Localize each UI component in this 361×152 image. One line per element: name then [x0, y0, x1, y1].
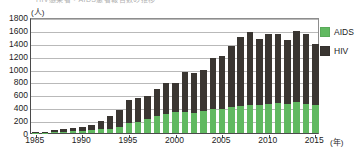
bar-segment-hiv — [303, 34, 310, 104]
bar-column — [247, 32, 254, 133]
y-tick-label: 1000 — [9, 66, 28, 74]
bar-segment-hiv — [172, 83, 179, 113]
bar-segment-aids — [265, 104, 272, 133]
legend-item: HIV — [320, 46, 361, 56]
bar-segment-hiv — [135, 98, 142, 122]
y-tick-label: 800 — [14, 78, 28, 86]
y-axis-tick-labels: 020040060080010001200140016001800 — [0, 18, 29, 134]
legend-swatch-icon — [320, 46, 330, 56]
bar-segment-aids — [51, 132, 58, 133]
bar-segment-aids — [172, 112, 179, 133]
bar-segment-hiv — [228, 46, 235, 107]
bar-column — [163, 83, 170, 133]
bar-segment-aids — [70, 131, 77, 133]
bar-segment-aids — [191, 113, 198, 133]
x-tick-label: 1990 — [72, 135, 91, 145]
bar-segment-aids — [135, 122, 142, 133]
bar-segment-aids — [79, 131, 86, 133]
bar-column — [135, 98, 142, 133]
chart-title: HIV感染者・AIDS患者報告数の推移 — [36, 0, 156, 4]
bar-column — [88, 125, 95, 133]
bar-segment-aids — [275, 103, 282, 133]
bar-column — [172, 83, 179, 133]
bar-segment-hiv — [247, 32, 254, 105]
bar-column — [312, 44, 319, 133]
bar-column — [256, 39, 263, 133]
bar-segment-hiv — [275, 34, 282, 102]
bar-series-group — [31, 19, 318, 133]
bar-segment-hiv — [126, 100, 133, 123]
legend-item: AIDS — [320, 27, 361, 37]
bar-segment-aids — [256, 105, 263, 133]
x-tick-label: 2015 — [305, 135, 324, 145]
bar-column — [200, 70, 207, 133]
y-tick-label: 1200 — [9, 53, 28, 61]
bar-segment-hiv — [182, 72, 189, 111]
bar-column — [182, 72, 189, 133]
bar-segment-aids — [144, 119, 151, 133]
bar-segment-hiv — [144, 96, 151, 119]
bar-segment-aids — [247, 105, 254, 133]
bar-segment-hiv — [154, 89, 161, 116]
bar-segment-aids — [210, 109, 217, 133]
bar-segment-hiv — [284, 40, 291, 104]
bar-column — [42, 132, 49, 133]
bar-segment-hiv — [107, 116, 114, 128]
bar-column — [60, 129, 67, 133]
bar-segment-hiv — [200, 70, 207, 111]
bar-segment-hiv — [219, 56, 226, 109]
bar-segment-aids — [284, 104, 291, 133]
bar-segment-aids — [200, 111, 207, 133]
bar-segment-hiv — [265, 34, 272, 104]
y-tick-label: 1400 — [9, 40, 28, 48]
y-axis-unit-label: (人) — [31, 6, 44, 17]
bar-column — [228, 46, 235, 133]
x-tick-label: 2000 — [165, 135, 184, 145]
bar-column — [154, 89, 161, 133]
bar-segment-aids — [98, 129, 105, 133]
bar-segment-hiv — [312, 44, 319, 105]
bar-column — [70, 128, 77, 133]
bar-segment-aids — [154, 116, 161, 133]
x-tick-label: 1985 — [25, 135, 44, 145]
bar-segment-aids — [88, 130, 95, 133]
bar-column — [126, 100, 133, 133]
x-tick-label: 2005 — [212, 135, 231, 145]
bar-segment-hiv — [191, 73, 198, 113]
bar-segment-aids — [116, 127, 123, 133]
y-tick-label: 1800 — [9, 14, 28, 22]
legend-label: AIDS — [334, 27, 354, 37]
x-tick-label: 2010 — [258, 135, 277, 145]
bar-segment-aids — [237, 106, 244, 133]
bar-column — [144, 96, 151, 133]
bar-segment-hiv — [163, 83, 170, 113]
bar-column — [191, 73, 198, 133]
y-tick-label: 600 — [14, 91, 28, 99]
bar-column — [107, 116, 114, 133]
bar-column — [32, 132, 39, 133]
bar-column — [237, 37, 244, 133]
bar-segment-hiv — [256, 39, 263, 105]
bar-segment-aids — [303, 104, 310, 133]
bar-segment-aids — [219, 109, 226, 133]
y-tick-label: 400 — [14, 104, 28, 112]
bar-column — [303, 34, 310, 133]
chart-figure: HIV感染者・AIDS患者報告数の推移 (人) (年) 020040060080… — [0, 0, 361, 152]
legend-swatch-icon — [320, 27, 330, 37]
plot-area — [30, 18, 319, 134]
bar-column — [265, 34, 272, 133]
bar-segment-aids — [293, 102, 300, 133]
bar-segment-hiv — [237, 37, 244, 107]
x-axis-tick-labels: 1985199019952000200520102015 — [0, 135, 361, 149]
bar-segment-aids — [182, 112, 189, 133]
bar-segment-hiv — [293, 31, 300, 102]
bar-segment-hiv — [116, 110, 123, 127]
bar-column — [293, 31, 300, 133]
bar-segment-aids — [126, 123, 133, 133]
bar-segment-aids — [60, 132, 67, 133]
chart-legend: AIDSHIV — [320, 27, 361, 65]
bar-column — [284, 40, 291, 133]
bar-segment-aids — [228, 107, 235, 133]
bar-column — [275, 34, 282, 133]
bar-column — [210, 58, 217, 133]
